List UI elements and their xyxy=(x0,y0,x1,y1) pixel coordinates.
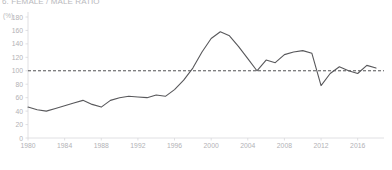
y-axis-tick-label: 80 xyxy=(3,81,23,88)
y-axis-tick-label: 140 xyxy=(3,40,23,47)
axis-ticks xyxy=(26,17,358,141)
y-axis-tick-label: 20 xyxy=(3,121,23,128)
x-axis-tick-label: 1980 xyxy=(13,142,43,149)
y-axis-tick-label: 60 xyxy=(3,94,23,101)
x-axis-tick-label: 2008 xyxy=(269,142,299,149)
x-axis-tick-label: 2004 xyxy=(233,142,263,149)
x-axis-tick-label: 1992 xyxy=(123,142,153,149)
y-axis-tick-label: 180 xyxy=(3,14,23,21)
x-axis-tick-label: 2012 xyxy=(306,142,336,149)
y-axis-tick-label: 40 xyxy=(3,108,23,115)
x-axis-tick-label: 1996 xyxy=(160,142,190,149)
x-axis-tick-label: 2016 xyxy=(343,142,373,149)
y-axis-tick-label: 160 xyxy=(3,27,23,34)
data-series-line xyxy=(28,32,376,111)
y-axis-tick-label: 100 xyxy=(3,67,23,74)
x-axis-tick-label: 2000 xyxy=(196,142,226,149)
y-axis-tick-label: 120 xyxy=(3,54,23,61)
y-axis-tick-label: 0 xyxy=(3,135,23,142)
x-axis-tick-label: 1984 xyxy=(50,142,80,149)
axes-group xyxy=(28,12,384,138)
chart-figure: 6. FEMALE / MALE RATIO (%) 0204060801001… xyxy=(0,0,392,170)
x-axis-tick-label: 1988 xyxy=(86,142,116,149)
